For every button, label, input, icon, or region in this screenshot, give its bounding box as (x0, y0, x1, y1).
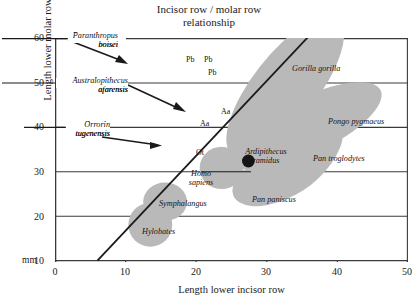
label-ardipithecus-ramidus: Ardipithecus ramidus (230, 147, 302, 165)
label-pan-troglodytes: Pan troglodytes (313, 154, 365, 164)
x-tick-40: 40 (325, 266, 349, 277)
label-ardipithecus-line-2: ramidus (253, 156, 280, 165)
y-axis-label: Length lower molar row (42, 0, 53, 130)
label-symphalangus: Symphalangus (159, 199, 207, 209)
y-tick-20: 20 (16, 211, 44, 222)
x-tick-10: 10 (113, 266, 137, 277)
x-tick-30: 30 (254, 266, 278, 277)
label-paranthropus-text-line-2: boisei (98, 40, 118, 49)
ellipse-hylobates (128, 203, 172, 247)
marker-aa-2: Aa (200, 119, 209, 128)
y-tick-30: 30 (16, 166, 44, 177)
label-orrorin-text-line-1: Orrorin (84, 120, 110, 129)
x-tick-0: 0 (43, 266, 67, 277)
marker-pb-1: Pb (186, 55, 194, 64)
label-orrorin-text-line-2: tugenensis (75, 129, 110, 138)
x-tick-20: 20 (184, 266, 208, 277)
x-axis-label: Length lower incisor row (55, 284, 408, 295)
marker-ot-1: Ot (196, 148, 204, 157)
label-ardipithecus-line-1: Ardipithecus (245, 147, 287, 156)
label-pan-paniscus: Pan paniscus (252, 195, 296, 205)
species-ellipses (128, 38, 393, 247)
arrow-orrorin-tugenensis (102, 137, 162, 149)
arrow-australopithecus-afarensis (128, 85, 186, 112)
chart-title-line-2: relationship (0, 16, 418, 29)
label-australopithecus-text-line-2: afarensis (98, 85, 128, 94)
label-australopithecus-afarensis-text: Australopithecus afarensis (30, 76, 128, 94)
label-orrorin-tugenensis-text: Orrorin tugenensis (38, 120, 110, 138)
x-tick-50: 50 (395, 266, 418, 277)
chart-figure: Incisor row / molar row relationship Len… (0, 0, 418, 306)
label-paranthropus-boisei-text: Paranthropus boisei (40, 31, 118, 49)
label-homo-sapiens-line-2: sapiens (189, 178, 214, 187)
label-homo-sapiens-line-1: Homo (191, 169, 211, 178)
chart-title-line-1: Incisor row / molar row (0, 3, 418, 16)
plot-area: Pb Pb Pb Aa Aa Ot Gorilla gorilla Pongo … (55, 38, 408, 262)
label-gorilla-gorilla: Gorilla gorilla (292, 64, 340, 74)
marker-pb-3: Pb (208, 68, 216, 77)
label-australopithecus-text-line-1: Australopithecus (73, 76, 129, 85)
chart-title: Incisor row / molar row relationship (0, 3, 418, 29)
marker-aa-1: Aa (221, 107, 230, 116)
label-paranthropus-text-line-1: Paranthropus (73, 31, 118, 40)
y-tick-10: 10 (16, 255, 44, 266)
label-pongo-pygmaeus: Pongo pygmaeus (328, 117, 384, 127)
label-hylobates: Hylobates (142, 227, 175, 237)
label-homo-sapiens: Homo sapiens (177, 169, 225, 187)
marker-pb-2: Pb (204, 55, 212, 64)
